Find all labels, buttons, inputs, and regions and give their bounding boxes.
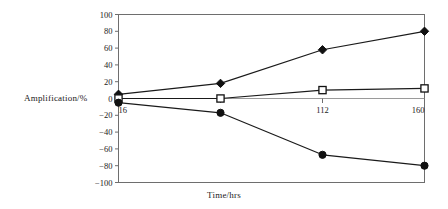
x-tick-label: 112 bbox=[316, 105, 328, 115]
chart-figure: 100806040200−20−40−60−80−100 16112160 Am… bbox=[0, 0, 448, 209]
y-axis-tick-labels: 100806040200−20−40−60−80−100 bbox=[95, 10, 113, 188]
x-axis-ticks bbox=[119, 99, 425, 104]
data-point-marker bbox=[319, 87, 326, 94]
data-point-marker bbox=[115, 99, 122, 106]
data-point-marker bbox=[319, 151, 326, 158]
x-tick-label: 160 bbox=[412, 105, 425, 115]
data-point-marker bbox=[421, 85, 428, 92]
y-tick-label: −20 bbox=[99, 110, 112, 120]
data-point-marker bbox=[420, 27, 428, 35]
data-point-marker bbox=[318, 46, 326, 54]
line-chart-canvas: 100806040200−20−40−60−80−100 16112160 bbox=[0, 0, 448, 209]
data-point-marker bbox=[217, 95, 224, 102]
y-tick-label: 80 bbox=[104, 26, 113, 36]
y-axis-title: Amplification/% bbox=[24, 93, 88, 103]
data-point-marker bbox=[421, 162, 428, 169]
y-tick-label: 0 bbox=[108, 94, 112, 104]
y-tick-label: 60 bbox=[104, 43, 113, 53]
y-tick-label: −80 bbox=[99, 161, 112, 171]
series-line-lower-series bbox=[119, 103, 425, 166]
x-axis-tick-labels: 16112160 bbox=[119, 105, 425, 115]
y-tick-label: 40 bbox=[104, 60, 113, 70]
y-tick-label: 20 bbox=[104, 77, 113, 87]
x-axis-title: Time/hrs bbox=[0, 190, 448, 200]
series-line-upper-series bbox=[119, 31, 425, 94]
y-tick-label: −60 bbox=[99, 144, 112, 154]
data-point-marker bbox=[216, 79, 224, 87]
y-tick-label: −100 bbox=[95, 178, 113, 188]
data-point-marker bbox=[217, 109, 224, 116]
y-tick-label: −40 bbox=[99, 127, 112, 137]
y-tick-label: 100 bbox=[100, 10, 113, 20]
